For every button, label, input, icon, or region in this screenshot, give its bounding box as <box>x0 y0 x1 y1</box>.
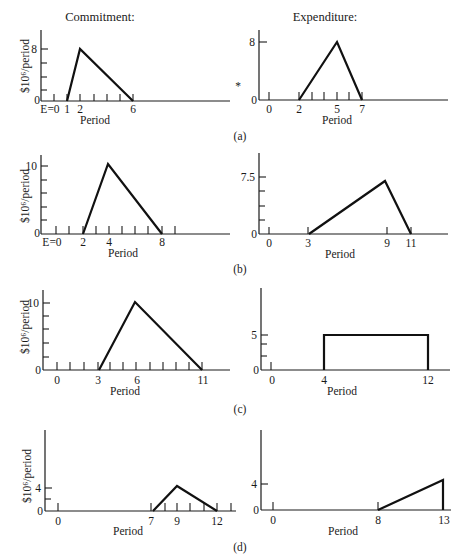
x-tick-13: 13 <box>438 514 450 526</box>
panel-label-c: (c) <box>234 403 247 416</box>
x-axis-label: Period <box>327 385 357 397</box>
panel-b-commitment: $10⁶/period 10 0 E=0 2 4 8 Period <box>19 155 230 259</box>
y-tick-0: 0 <box>35 364 41 376</box>
commitment-header: Commitment: <box>65 10 134 24</box>
x-minor-ticks <box>269 92 362 100</box>
x-tick-0: 0 <box>54 374 60 386</box>
x-tick-7: 7 <box>148 515 154 527</box>
x-tick-2: 2 <box>296 103 302 115</box>
x-axis-label: Period <box>113 525 143 537</box>
commitment-curve <box>67 49 133 101</box>
y-minor-ticks <box>45 488 52 499</box>
x-tick-0: 0 <box>266 237 272 249</box>
y-tick-10: 10 <box>28 297 40 309</box>
x-tick-3: 3 <box>95 374 101 386</box>
y-minor-ticks <box>41 49 48 90</box>
x-tick-1: 1 <box>64 103 70 115</box>
expenditure-curve <box>309 181 411 234</box>
commitment-curve <box>153 486 217 511</box>
x-tick-0: 0 <box>55 515 61 527</box>
x-tick-6: 6 <box>130 103 136 115</box>
x-tick-0: 0 <box>270 514 276 526</box>
x-tick-9: 9 <box>384 237 390 249</box>
x-tick-11: 11 <box>405 237 416 249</box>
x-axis-label: Period <box>80 114 110 126</box>
commitment-curve <box>99 302 202 370</box>
y-tick-0: 0 <box>253 364 259 376</box>
y-tick-0: 0 <box>37 505 43 517</box>
y-tick-0: 0 <box>34 94 40 106</box>
y-axis-label: $10⁶/period <box>19 169 32 223</box>
expenditure-curve <box>378 480 443 510</box>
y-tick-4: 4 <box>35 482 41 494</box>
panel-d-commitment: $10⁶/period 4 0 0 7 9 12 Period <box>21 430 236 537</box>
panel-a-expenditure: * 8 0 0 2 5 7 Period <box>235 30 448 126</box>
x-tick-e0: E=0 <box>42 236 62 248</box>
x-tick-11: 11 <box>197 374 208 386</box>
y-tick-0: 0 <box>251 228 257 240</box>
x-axis-label: Period <box>325 248 355 260</box>
x-tick-9: 9 <box>174 515 180 527</box>
y-tick-5: 5 <box>251 329 257 341</box>
expenditure-curve <box>324 335 428 370</box>
x-tick-0: 0 <box>269 374 275 386</box>
x-axis-label: Period <box>328 525 358 537</box>
commitment-curve <box>83 164 162 234</box>
y-tick-8: 8 <box>31 43 37 55</box>
x-tick-0: 0 <box>266 103 272 115</box>
x-axis-label: Period <box>322 114 352 126</box>
x-tick-12: 12 <box>211 515 223 527</box>
y-minor-ticks <box>261 335 268 356</box>
panel-c-expenditure: 5 0 0 4 12 Period <box>251 288 450 397</box>
y-minor-ticks <box>259 177 266 220</box>
y-tick-0: 0 <box>251 94 257 106</box>
x-minor-ticks <box>273 502 378 510</box>
x-axis-label: Period <box>110 385 140 397</box>
x-tick-12: 12 <box>422 374 434 386</box>
expenditure-header: Expenditure: <box>293 10 358 24</box>
y-tick-10: 10 <box>26 160 38 172</box>
x-tick-8: 8 <box>159 236 165 248</box>
x-minor-ticks <box>269 227 411 234</box>
panel-d-expenditure: 4 0 0 8 13 Period <box>251 430 451 537</box>
panel-label-a: (a) <box>234 130 247 143</box>
y-tick-8: 8 <box>249 36 255 48</box>
x-minor-ticks <box>54 94 133 101</box>
y-axis-label: $10⁶/period <box>19 39 32 93</box>
panel-a-commitment: $10⁶/period 8 0 E=0 1 2 6 Period <box>19 30 230 126</box>
x-tick-2: 2 <box>80 236 86 248</box>
panel-c-commitment: $10⁶/period 10 0 0 3 6 11 <box>19 290 230 397</box>
x-tick-7: 7 <box>359 103 365 115</box>
y-tick-7-5: 7.5 <box>241 171 256 183</box>
y-axis-label: $10⁶/period <box>21 449 34 503</box>
stray-mark: * <box>235 80 241 92</box>
x-tick-e0: E=0 <box>40 103 60 115</box>
x-tick-3: 3 <box>305 237 311 249</box>
panel-b-expenditure: 7.5 0 0 3 9 11 Period <box>241 153 448 260</box>
y-tick-0: 0 <box>253 504 259 516</box>
x-axis-label: Period <box>108 247 138 259</box>
panel-label-b: (b) <box>233 263 247 276</box>
y-tick-4: 4 <box>251 478 257 490</box>
y-minor-ticks <box>43 303 50 357</box>
x-minor-ticks <box>57 362 202 370</box>
x-tick-8: 8 <box>375 514 381 526</box>
diagram-canvas: Commitment: Expenditure: $10⁶/period 8 0… <box>0 0 466 555</box>
expenditure-curve <box>299 42 362 100</box>
panel-label-d: (d) <box>233 541 247 554</box>
y-minor-ticks <box>41 166 48 220</box>
y-tick-0: 0 <box>34 227 40 239</box>
